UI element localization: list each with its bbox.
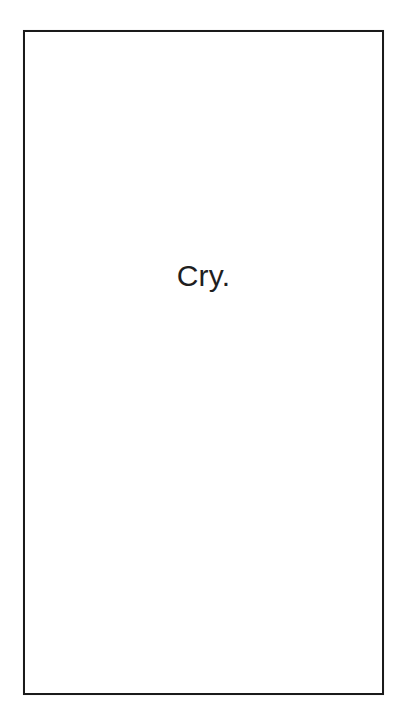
page-body-text: Cry. (25, 256, 382, 296)
page-blank-area-top (25, 32, 382, 262)
page-frame: Cry. (23, 30, 384, 695)
page-blank-area-bottom (25, 296, 382, 693)
document-canvas: Cry. (0, 0, 407, 726)
